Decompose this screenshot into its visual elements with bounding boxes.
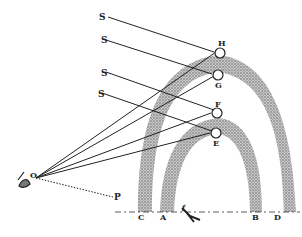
axis-line: [36, 178, 113, 197]
label-e: E: [213, 138, 219, 148]
drop-f: [212, 108, 222, 118]
label-h: H: [218, 38, 226, 48]
label-a: A: [159, 212, 167, 222]
label-s1: S: [99, 12, 106, 22]
label-s4: S: [98, 89, 105, 99]
label-o: O: [30, 170, 37, 180]
eye-rays: [36, 52, 216, 178]
label-b: B: [252, 212, 259, 222]
rainbow-diagram: S S S S H G F E O P C A f B D: [0, 0, 302, 237]
label-f: F: [215, 99, 221, 109]
label-s2: S: [101, 35, 108, 45]
label-s3: S: [101, 68, 108, 78]
drop-e: [211, 128, 221, 138]
label-f-small: f: [181, 203, 187, 212]
eye-icon: [18, 172, 30, 187]
drop-g: [213, 70, 223, 80]
label-c: C: [138, 212, 144, 222]
label-d: D: [274, 212, 281, 222]
drop-h: [215, 48, 225, 58]
label-p: P: [114, 192, 121, 202]
label-g: G: [215, 80, 222, 90]
